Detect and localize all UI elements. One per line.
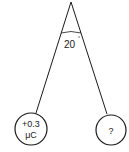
left-string <box>36 2 71 113</box>
left-charge-value: +0.3 <box>22 119 40 129</box>
right-charge-unknown: ? <box>108 126 113 136</box>
angle-arc <box>61 32 81 34</box>
pendulum-diagram: 20 ° +0.3 μC ? <box>0 0 129 152</box>
angle-label: 20 <box>64 39 76 50</box>
right-string <box>71 2 107 114</box>
left-sphere <box>15 113 47 145</box>
degree-symbol: ° <box>78 35 80 41</box>
left-charge-unit: μC <box>25 130 37 140</box>
